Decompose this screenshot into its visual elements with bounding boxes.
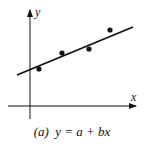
figure-caption: (a) y = a + bx xyxy=(0,124,144,140)
regression-line xyxy=(17,27,133,75)
data-points xyxy=(36,27,112,71)
data-point xyxy=(59,50,64,55)
y-axis-label: y xyxy=(34,5,41,19)
x-axis-label: x xyxy=(130,90,137,104)
data-point xyxy=(107,27,112,32)
data-point xyxy=(86,46,91,51)
data-point xyxy=(36,66,41,71)
